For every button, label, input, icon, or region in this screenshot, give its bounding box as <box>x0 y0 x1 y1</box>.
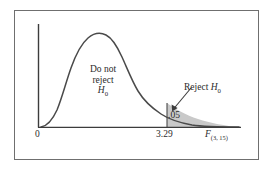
reject-hypothesis-subscript: 0 <box>218 87 221 94</box>
distribution-curve <box>41 33 239 127</box>
reject-text: Reject <box>184 82 211 92</box>
x-axis-origin-label: 0 <box>35 129 40 140</box>
x-axis-subscript: (3, 15) <box>211 134 228 141</box>
reject-hypothesis-symbol: H <box>211 82 218 92</box>
reject-label: Reject H0 <box>184 82 221 95</box>
do-not-reject-label: Do not reject H0 <box>72 64 134 98</box>
alpha-area-label: .05 <box>168 110 180 121</box>
do-not-reject-hypothesis-subscript: 0 <box>105 90 108 97</box>
do-not-reject-line1: Do not <box>90 64 116 74</box>
x-axis-variable-label: F(3, 15) <box>205 129 228 141</box>
figure-container: Do not reject H0 Reject H0 .05 0 3.29 F(… <box>0 0 273 172</box>
do-not-reject-line2: reject <box>92 75 113 85</box>
f-distribution-chart <box>0 0 273 172</box>
do-not-reject-hypothesis-symbol: H <box>98 85 105 95</box>
critical-value-tick-label: 3.29 <box>156 129 173 140</box>
